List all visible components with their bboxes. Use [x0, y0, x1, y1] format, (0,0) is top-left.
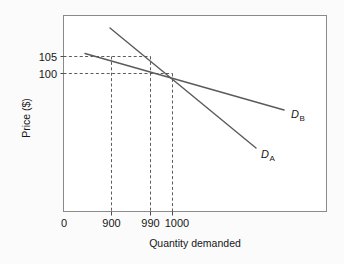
curve-label-db-letter: D [291, 108, 299, 120]
y-axis-title: Price ($) [20, 98, 32, 138]
ytick-label-105: 105 [39, 51, 57, 63]
chart-canvas: 105 100 0 900 990 1000 Quantity demanded… [0, 0, 344, 264]
curve-label-da-subscript: A [270, 154, 276, 163]
curve-label-db-subscript: B [300, 114, 305, 123]
demand-curve-chart: 105 100 0 900 990 1000 Quantity demanded… [0, 0, 344, 264]
x-axis-title: Quantity demanded [149, 237, 241, 249]
xtick-label-0: 0 [61, 217, 67, 229]
chart-figure: 105 100 0 900 990 1000 Quantity demanded… [0, 0, 344, 264]
xtick-label-990: 990 [141, 217, 159, 229]
xtick-label-900: 900 [102, 217, 120, 229]
xtick-label-1000: 1000 [165, 217, 189, 229]
curve-label-da-letter: D [261, 148, 269, 160]
plot-frame [64, 16, 327, 212]
ytick-label-100: 100 [39, 68, 57, 80]
